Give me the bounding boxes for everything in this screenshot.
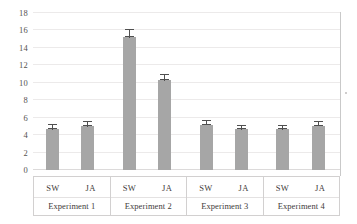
y-tick-label-0: 0 xyxy=(6,166,28,175)
error-bar-cap-lower xyxy=(237,128,246,129)
error-bar-cap-lower xyxy=(125,36,134,37)
group-cell-2: SWJAExperiment 2 xyxy=(111,177,188,215)
y-tick-label-8: 8 xyxy=(6,96,28,105)
error-bar-cap-lower xyxy=(160,79,169,80)
plot-right-border xyxy=(340,12,341,176)
y-tick-label-12: 12 xyxy=(6,61,28,70)
y-tick-label-18: 18 xyxy=(6,9,28,18)
error-bar-cap-upper xyxy=(83,121,92,122)
group-label: Experiment 4 xyxy=(264,198,340,215)
error-bar-cap-upper xyxy=(202,120,211,121)
condition-row: SWJA xyxy=(34,179,110,198)
y-tick-label-14: 14 xyxy=(6,44,28,53)
error-bar-cap-lower xyxy=(48,128,57,129)
error-bar-cap-lower xyxy=(83,125,92,126)
group-cell-1: SWJAExperiment 1 xyxy=(34,177,111,215)
bar xyxy=(235,129,248,170)
error-bar-cap-upper xyxy=(278,125,287,126)
category-label-table: SWJAExperiment 1SWJAExperiment 2SWJAExpe… xyxy=(33,176,340,216)
bar-chart: 181614121086420 SWJAExperiment 1SWJAExpe… xyxy=(0,0,357,224)
y-tick-label-6: 6 xyxy=(6,114,28,123)
y-tick-label-16: 16 xyxy=(6,26,28,35)
bar-group-3-ja xyxy=(235,13,248,170)
condition-label-ja: JA xyxy=(148,179,186,197)
bar xyxy=(312,126,325,170)
group-cell-3: SWJAExperiment 3 xyxy=(187,177,264,215)
error-bar-cap-upper xyxy=(314,121,323,122)
error-bar-cap-lower xyxy=(202,124,211,125)
group-label: Experiment 1 xyxy=(34,198,110,215)
bar-group-2-ja xyxy=(158,13,171,170)
condition-row: SWJA xyxy=(187,179,263,198)
bar-group-1-sw xyxy=(46,13,59,170)
error-bar-cap-lower xyxy=(314,125,323,126)
error-bar-cap-lower xyxy=(278,128,287,129)
error-bar-cap-upper xyxy=(48,124,57,125)
condition-label-sw: SW xyxy=(187,179,225,197)
bar xyxy=(123,37,136,170)
y-tick-label-2: 2 xyxy=(6,149,28,158)
condition-label-sw: SW xyxy=(34,179,72,197)
condition-label-ja: JA xyxy=(301,179,339,197)
bar xyxy=(200,125,213,170)
error-bar-cap-upper xyxy=(125,29,134,30)
group-label: Experiment 3 xyxy=(187,198,263,215)
condition-label-sw: SW xyxy=(111,179,149,197)
error-bar-cap-upper xyxy=(160,74,169,75)
bar xyxy=(81,126,94,170)
bar xyxy=(46,129,59,170)
condition-label-ja: JA xyxy=(225,179,263,197)
group-cell-4: SWJAExperiment 4 xyxy=(264,177,340,215)
group-label: Experiment 2 xyxy=(111,198,187,215)
condition-label-ja: JA xyxy=(72,179,110,197)
scan-artifact-speck xyxy=(345,92,347,94)
y-tick-label-4: 4 xyxy=(6,131,28,140)
bar-group-4-sw xyxy=(276,13,289,170)
bar xyxy=(158,80,171,170)
condition-label-sw: SW xyxy=(264,179,302,197)
y-tick-label-10: 10 xyxy=(6,79,28,88)
condition-row: SWJA xyxy=(264,179,340,198)
error-bar-cap-upper xyxy=(237,125,246,126)
plot-area xyxy=(33,13,340,170)
bar-group-1-ja xyxy=(81,13,94,170)
bar-group-3-sw xyxy=(200,13,213,170)
condition-row: SWJA xyxy=(111,179,187,198)
bar xyxy=(276,129,289,170)
bar-group-4-ja xyxy=(312,13,325,170)
bar-series-layer xyxy=(33,13,340,170)
bar-group-2-sw xyxy=(123,13,136,170)
